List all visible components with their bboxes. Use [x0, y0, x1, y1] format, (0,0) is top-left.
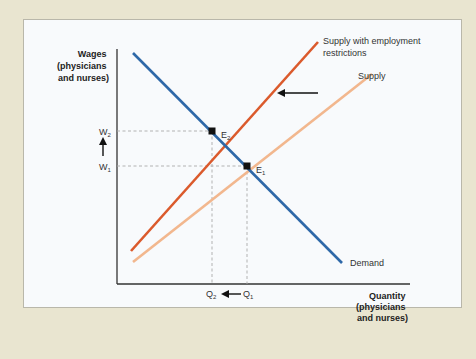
guide-lines [117, 131, 247, 284]
supply-restricted-label: Supply with employment restrictions [323, 36, 423, 58]
equilibrium-e2-point [209, 128, 216, 135]
q2-tick-label: Q2 [206, 289, 217, 300]
equilibrium-e1-point [244, 163, 251, 170]
w2-tick-label: W2 [99, 127, 112, 138]
e2-label: E2 [221, 130, 231, 141]
demand-label: Demand [350, 258, 384, 268]
e1-label: E1 [256, 165, 266, 176]
supply-demand-chart: Wages (physicians and nurses) Quantity (… [0, 0, 476, 359]
x-axis-label: Quantity (physicians and nurses) [356, 291, 408, 323]
demand-curve [133, 53, 342, 263]
supply-curve [133, 74, 372, 262]
q1-tick-label: Q1 [243, 289, 254, 300]
y-axis-label: Wages (physicians and nurses) [57, 49, 109, 83]
w1-tick-label: W1 [99, 162, 112, 173]
supply-label: Supply [358, 71, 386, 81]
